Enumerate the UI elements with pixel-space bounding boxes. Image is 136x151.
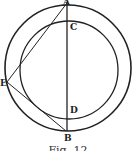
inner-circle	[20, 21, 118, 119]
label-C: C	[70, 23, 77, 32]
chord-EA	[7, 3, 67, 82]
geometry-figure	[0, 0, 136, 151]
outer-circle	[5, 5, 131, 131]
label-E: E	[0, 79, 7, 88]
label-B: B	[64, 134, 72, 143]
label-D: D	[70, 106, 78, 115]
chord-EB	[7, 82, 66, 131]
label-A: A	[63, 0, 70, 7]
figure-caption: Fig. 12	[0, 144, 136, 151]
